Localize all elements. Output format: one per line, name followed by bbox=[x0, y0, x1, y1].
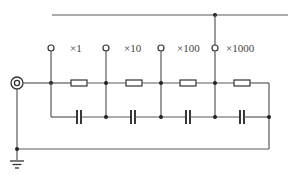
resistor-icon bbox=[180, 80, 196, 86]
junction-dot bbox=[159, 115, 163, 119]
coax-connector-icon bbox=[11, 77, 23, 89]
capacitor-icon bbox=[240, 110, 244, 124]
resistor-icon bbox=[126, 80, 142, 86]
junction-dot bbox=[15, 147, 19, 151]
ground-icon bbox=[10, 161, 24, 168]
capacitor-icon bbox=[131, 110, 135, 124]
terminal-icon bbox=[48, 45, 54, 51]
resistor-icon bbox=[71, 80, 87, 86]
tap-label: ×10 bbox=[124, 42, 142, 54]
resistor-chain bbox=[51, 80, 269, 149]
tap-label: ×1 bbox=[70, 42, 82, 54]
tap-label: ×100 bbox=[177, 42, 200, 54]
junction-dot bbox=[104, 115, 108, 119]
junction-dot bbox=[213, 115, 217, 119]
terminal-icon bbox=[212, 45, 218, 51]
capacitor-icon bbox=[77, 110, 81, 124]
junction-dot bbox=[213, 81, 217, 85]
junction-dot bbox=[104, 81, 108, 85]
terminal-icon bbox=[158, 45, 164, 51]
junction-dot bbox=[159, 81, 163, 85]
capacitor-icon bbox=[186, 110, 190, 124]
resistor-icon bbox=[234, 80, 250, 86]
circuit-diagram: ×1 ×10 ×100 ×1000 bbox=[0, 0, 288, 186]
terminal-icon bbox=[103, 45, 109, 51]
junction-dot bbox=[267, 115, 271, 119]
tap-x1: ×1 bbox=[48, 42, 82, 83]
tap-label: ×1000 bbox=[226, 42, 255, 54]
